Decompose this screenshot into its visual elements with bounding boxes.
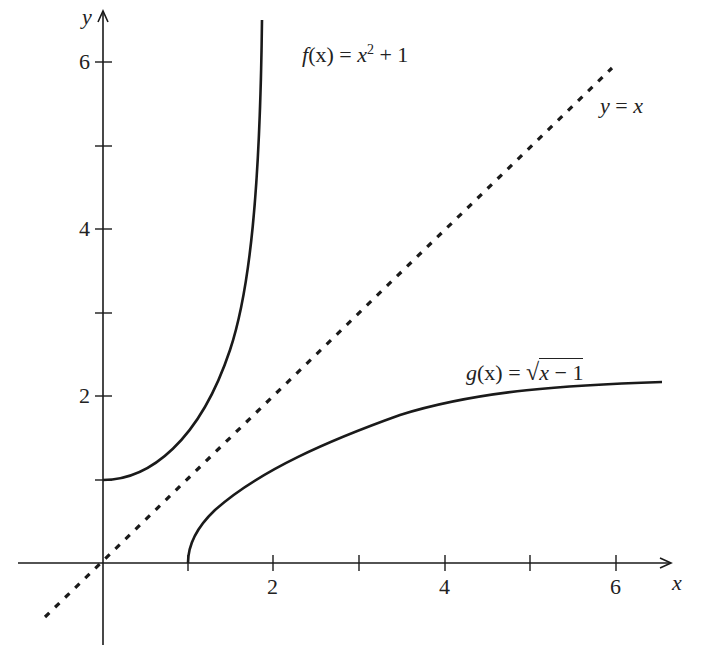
identity-label-eq: = [610,93,633,118]
sqrt-icon: √ [526,359,539,385]
y-tick-label-2: 2 [79,385,90,407]
identity-label-rhs: x [633,93,643,118]
axes [18,11,671,645]
x-tick-label-4: 4 [439,576,450,598]
x-tick-label-2: 2 [267,576,278,598]
x-axis-label: x [672,572,682,594]
g-label-arg: (x) = [477,360,526,385]
g-label-rest: − 1 [549,360,583,385]
y-tick-label-4: 4 [79,218,90,240]
f-label-var: x [357,42,367,67]
identity-line [45,68,612,617]
f-label-rest: + 1 [374,42,408,67]
y-tick-label-6: 6 [79,51,90,73]
f-label-arg: (x) = [308,42,357,67]
g-label-var: x [539,360,549,385]
y-axis-label: y [82,6,92,28]
x-tick-label-6: 6 [610,576,621,598]
identity-label-lhs: y [600,93,610,118]
g-label: g(x) = √x − 1 [466,360,583,384]
function-plot [0,0,703,659]
g-label-radicand: x − 1 [539,358,583,385]
f-label-exponent: 2 [367,42,374,57]
g-label-name: g [466,360,477,385]
identity-label: y = x [600,95,643,117]
f-curve [103,20,262,480]
f-label: f(x) = x2 + 1 [302,44,408,66]
